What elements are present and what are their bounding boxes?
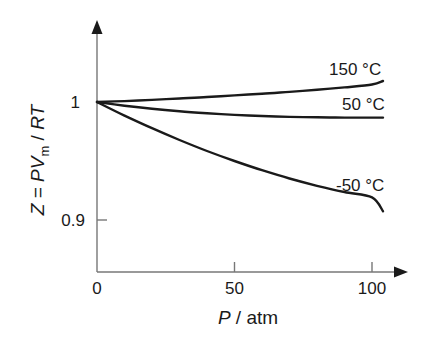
x-axis-arrow-icon [394,267,408,278]
y-axis-arrow-icon [92,20,103,34]
series-label-150c: 150 °C [329,60,381,79]
y-tick-label-0.9: 0.9 [61,211,85,230]
curve-50c [97,102,383,118]
y-axis-title: Z = PVm / RT [27,103,52,216]
x-tick-label-0: 0 [92,279,101,298]
x-axis-title: P / atm [218,307,278,328]
y-axis-title-eq: = [27,182,48,204]
curve-150c [97,81,383,102]
x-tick-label-100: 100 [358,279,386,298]
x-axis-title-p: P [218,307,231,328]
x-tick-label-50: 50 [225,279,244,298]
compression-factor-chart: 1 0.9 0 50 100 P / atm Z = PVm / RT 150 … [0,0,427,345]
y-axis-title-sub: m [37,146,52,157]
y-tick-label-1: 1 [71,93,80,112]
series-label-50c: 50 °C [342,95,385,114]
x-axis-title-unit: / atm [231,307,279,328]
y-axis-title-slash: / [27,130,48,146]
y-axis-title-pv: PV [27,154,48,182]
series-label-minus50c: -50 °C [336,176,384,195]
y-axis-title-rt: RT [27,103,48,129]
